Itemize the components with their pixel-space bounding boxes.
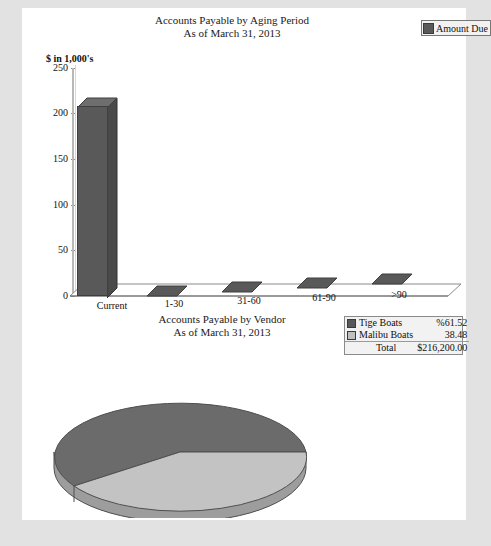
- legend-row-malibu[interactable]: Malibu Boats 38.48: [345, 329, 469, 342]
- y-tick-label-200: 200: [42, 107, 68, 118]
- bar-current[interactable]: [77, 96, 117, 296]
- tige-label: Tige Boats: [357, 317, 415, 329]
- x-tick-label-61-90: 61-90: [312, 292, 335, 303]
- x-tick-label-gt90: >90: [391, 289, 407, 300]
- malibu-swatch-icon: [347, 331, 356, 340]
- y-tick-label-100: 100: [42, 199, 68, 210]
- tige-value: %61.52: [415, 317, 469, 329]
- pie-chart-title-line2: As of March 31, 2013: [122, 326, 322, 339]
- malibu-value: 38.48: [415, 329, 469, 342]
- tige-swatch-icon: [347, 319, 356, 328]
- y-axis-wall-edge: [75, 65, 76, 293]
- tige-swatch-cell: [345, 317, 357, 329]
- total-swatch-cell: [345, 342, 357, 355]
- legend-row-tige[interactable]: Tige Boats %61.52: [345, 317, 469, 329]
- bar-current-side: [107, 96, 119, 302]
- bar-plot-area: 250 200 150 100 50 0: [22, 8, 466, 303]
- pie-graphic: [52, 398, 342, 522]
- total-label: Total: [357, 342, 415, 355]
- pie-chart-title-line1: Accounts Payable by Vendor: [122, 313, 322, 326]
- y-tick-label-150: 150: [42, 153, 68, 164]
- bar-chart: Accounts Payable by Aging Period As of M…: [22, 8, 466, 303]
- report-page: Accounts Payable by Aging Period As of M…: [22, 8, 466, 520]
- vendor-legend-table[interactable]: Tige Boats %61.52 Malibu Boats 38.48 Tot…: [344, 316, 463, 355]
- malibu-label: Malibu Boats: [357, 329, 415, 342]
- legend-row-total: Total $216,200.00: [345, 342, 469, 355]
- y-tick-label-0: 0: [42, 290, 68, 301]
- bar-current-front: [77, 106, 108, 296]
- total-value: $216,200.00: [415, 342, 469, 355]
- pie-chart: Accounts Payable by Vendor As of March 3…: [22, 303, 466, 520]
- malibu-swatch-cell: [345, 329, 357, 342]
- bar-zero-gt90: [372, 272, 414, 290]
- y-tick-label-50: 50: [42, 244, 68, 255]
- y-tick-label-250: 250: [42, 62, 68, 73]
- y-axis-line: [72, 68, 74, 296]
- pie-chart-title: Accounts Payable by Vendor As of March 3…: [122, 313, 322, 339]
